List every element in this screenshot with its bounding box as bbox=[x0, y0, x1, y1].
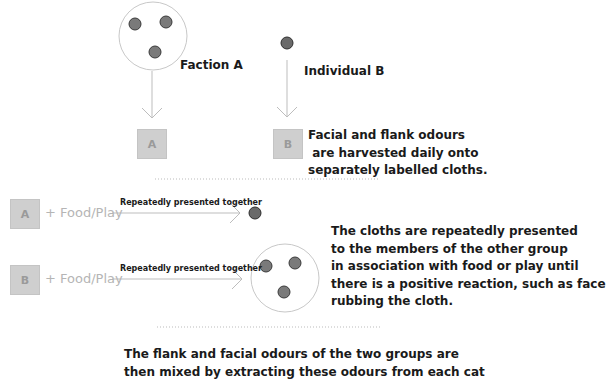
faction-a-target-group-icon bbox=[251, 244, 319, 312]
arrow-down-a-icon bbox=[142, 71, 162, 118]
individual-b-label: Individual B bbox=[304, 64, 384, 78]
row-b-cloth-box: B bbox=[10, 265, 40, 295]
mix-description: The flank and facial odours of the two g… bbox=[124, 346, 485, 379]
individual-b-target-icon bbox=[249, 207, 261, 219]
arrow-down-b-icon bbox=[277, 60, 297, 117]
faction-a-group-icon bbox=[119, 2, 187, 70]
cloth-a-box: A bbox=[137, 129, 167, 159]
harvest-description: Facial and flank odours are harvested da… bbox=[308, 127, 488, 180]
individual-b-cat-icon bbox=[281, 37, 293, 49]
row-a-arrow-label: Repeatedly presented together bbox=[120, 198, 262, 207]
row-b-food-play: + Food/Play bbox=[45, 271, 123, 286]
row-a-food-play: + Food/Play bbox=[45, 205, 123, 220]
presentation-description: The cloths are repeatedly presented to t… bbox=[331, 223, 606, 311]
cloth-b-box: B bbox=[273, 129, 303, 159]
faction-a-label: Faction A bbox=[180, 58, 243, 72]
row-a-cloth-box: A bbox=[10, 199, 40, 229]
row-b-arrow-label: Repeatedly presented together bbox=[120, 264, 262, 273]
